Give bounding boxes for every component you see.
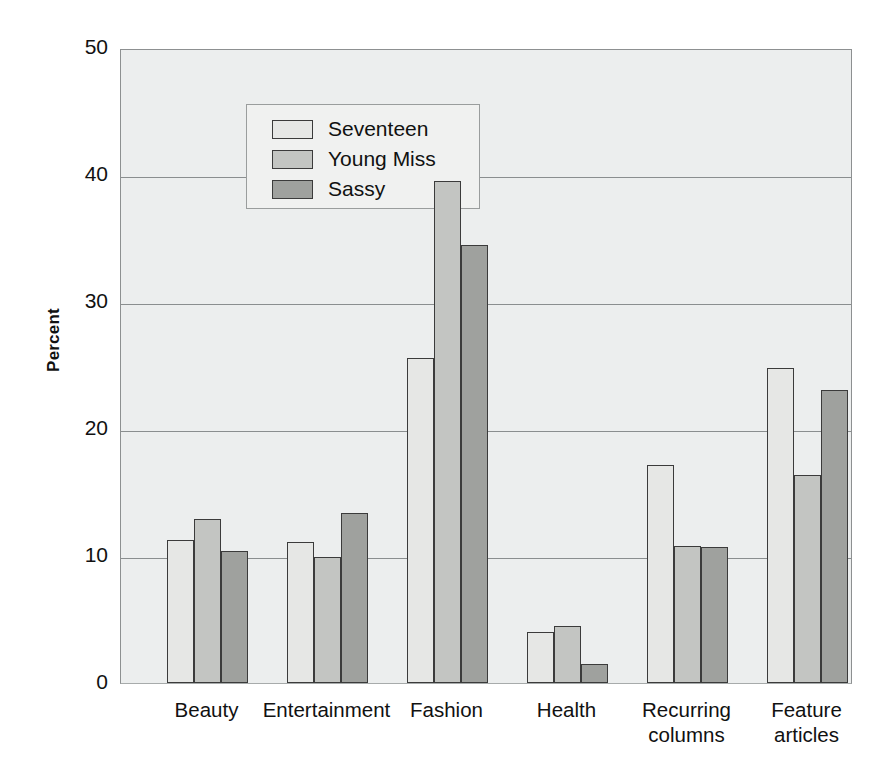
bar-seventeen-beauty bbox=[167, 540, 194, 684]
bar-young-miss-fashion bbox=[434, 181, 461, 683]
legend-swatch-seventeen bbox=[272, 120, 313, 139]
legend-item: Seventeen bbox=[272, 114, 479, 144]
bar-young-miss-entertainment bbox=[314, 557, 341, 683]
bar-seventeen-feature-articles bbox=[767, 368, 794, 683]
y-tick-label-40: 40 bbox=[48, 162, 108, 186]
bar-seventeen-entertainment bbox=[287, 542, 314, 683]
bar-seventeen-fashion bbox=[407, 358, 434, 683]
bar-seventeen-recurring-columns bbox=[647, 465, 674, 683]
y-tick-label-30: 30 bbox=[48, 289, 108, 313]
y-tick-label-10: 10 bbox=[48, 543, 108, 567]
gridline-40 bbox=[121, 177, 851, 178]
legend-label-sassy: Sassy bbox=[328, 177, 385, 201]
bar-young-miss-beauty bbox=[194, 519, 221, 683]
y-tick-label-0: 0 bbox=[48, 670, 108, 694]
legend-label-young-miss: Young Miss bbox=[328, 147, 436, 171]
plot-area: Seventeen Young Miss Sassy bbox=[120, 49, 852, 684]
legend-swatch-sassy bbox=[272, 180, 313, 199]
bar-seventeen-health bbox=[527, 632, 554, 683]
bar-chart-figure: Percent 01020304050 Seventeen Young Miss… bbox=[0, 0, 873, 769]
bar-sassy-fashion bbox=[461, 245, 488, 683]
bar-young-miss-feature-articles bbox=[794, 475, 821, 683]
bar-sassy-beauty bbox=[221, 551, 248, 683]
y-tick-label-50: 50 bbox=[48, 35, 108, 59]
bar-young-miss-health bbox=[554, 626, 581, 683]
bar-sassy-feature-articles bbox=[821, 390, 848, 683]
legend-label-seventeen: Seventeen bbox=[328, 117, 428, 141]
bar-sassy-recurring-columns bbox=[701, 547, 728, 683]
y-tick-label-20: 20 bbox=[48, 416, 108, 440]
legend-swatch-young-miss bbox=[272, 150, 313, 169]
bar-young-miss-recurring-columns bbox=[674, 546, 701, 683]
legend-item: Young Miss bbox=[272, 144, 479, 174]
bar-sassy-entertainment bbox=[341, 513, 368, 683]
bar-sassy-health bbox=[581, 664, 608, 683]
x-label-feature-articles: Feature articles bbox=[732, 697, 873, 747]
